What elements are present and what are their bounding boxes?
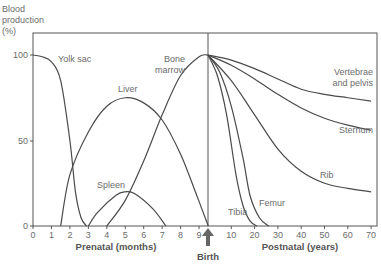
x-tick-month-3: 3: [86, 230, 91, 240]
series-labels: Yolk sacLiverSpleenBonemarrowVertebraean…: [58, 54, 373, 217]
y-axis: 100 50 0: [13, 50, 33, 231]
x-tick-month-0: 0: [30, 230, 35, 240]
chart-container: Blood production (%) 100 50 0 0123456789…: [0, 0, 381, 264]
label-tibia: Tibia: [228, 207, 247, 217]
curve-liver: [61, 98, 209, 226]
x-tick-month-1: 1: [49, 230, 54, 240]
curves: [33, 55, 371, 226]
x-tick-month-2: 2: [67, 230, 72, 240]
birth-label: Birth: [197, 251, 219, 262]
x-tick-month-9: 9: [197, 230, 202, 240]
curve-tibia: [208, 55, 257, 226]
x-tick-year-70: 70: [366, 230, 376, 240]
curve-yolk-sac: [33, 55, 87, 226]
y-axis-label-line3: (%): [2, 26, 16, 36]
x-tick-year-20: 20: [250, 230, 260, 240]
label-femur: Femur: [259, 198, 285, 208]
label-sternum: Sternum: [339, 125, 373, 135]
y-tick-100: 100: [13, 50, 28, 60]
label-bone-marrow-2: marrow: [155, 65, 186, 75]
x-tick-year-30: 30: [273, 230, 283, 240]
x-tick-month-4: 4: [104, 230, 109, 240]
label-vertebrae-and-pelvis-2: and pelvis: [332, 78, 373, 88]
label-vertebrae-and-pelvis-1: Vertebrae: [334, 67, 373, 77]
x-tick-year-50: 50: [319, 230, 329, 240]
curve-bone-marrow: [107, 55, 208, 226]
label-liver: Liver: [118, 84, 138, 94]
y-tick-0: 0: [23, 221, 28, 231]
label-yolk-sac: Yolk sac: [58, 54, 92, 64]
birth-arrow-icon: [202, 228, 214, 246]
label-bone-marrow-1: Bone: [164, 54, 185, 64]
y-tick-50: 50: [18, 136, 28, 146]
blood-production-chart: Blood production (%) 100 50 0 0123456789…: [0, 0, 381, 264]
x-tick-month-6: 6: [141, 230, 146, 240]
x-axis: 012345678910203040506070: [30, 226, 376, 240]
x-tick-month-5: 5: [123, 230, 128, 240]
label-spleen: Spleen: [97, 180, 125, 190]
y-axis-label-line1: Blood: [2, 4, 25, 14]
y-axis-label-line2: production: [2, 15, 44, 25]
x-tick-year-60: 60: [343, 230, 353, 240]
x-tick-month-8: 8: [178, 230, 183, 240]
label-rib: Rib: [320, 170, 334, 180]
x-tick-year-40: 40: [296, 230, 306, 240]
x-tick-year-10: 10: [226, 230, 236, 240]
x-tick-month-7: 7: [160, 230, 165, 240]
x-axis-label-postnatal: Postnatal (years): [262, 241, 339, 252]
x-axis-label-prenatal: Prenatal (months): [76, 241, 157, 252]
